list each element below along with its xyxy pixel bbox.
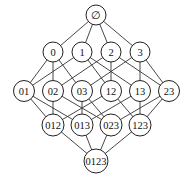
node-label: 1 (79, 47, 84, 58)
node-label: 02 (48, 86, 59, 97)
node-0123: 0123 (84, 149, 108, 173)
node-label: 12 (106, 86, 117, 97)
node-label: 13 (135, 86, 146, 97)
node-012: 012 (42, 114, 64, 136)
node-label: 03 (77, 86, 88, 97)
node-13: 13 (130, 81, 151, 102)
node-1: 1 (72, 42, 92, 62)
node-label: 123 (132, 120, 148, 131)
node-12: 12 (101, 81, 122, 102)
node-013: 013 (71, 114, 93, 136)
node-123: 123 (129, 114, 151, 136)
node-label: ∅ (91, 10, 101, 21)
node-3: 3 (130, 42, 150, 62)
node-label: 0 (50, 47, 55, 58)
node-label: 013 (74, 120, 90, 131)
node-label: 3 (137, 47, 142, 58)
node-23: 23 (159, 81, 180, 102)
node-label: 01 (19, 86, 30, 97)
node-023: 023 (100, 114, 122, 136)
node-03: 03 (72, 81, 93, 102)
hasse-diagram: ∅01230102031213230120130231230123 (0, 0, 193, 180)
node-01: 01 (14, 81, 35, 102)
node-label: 2 (108, 47, 113, 58)
node-0: 0 (43, 42, 63, 62)
node-empty-set: ∅ (86, 5, 106, 25)
nodes-layer: ∅01230102031213230120130231230123 (14, 5, 180, 173)
node-label: 012 (45, 120, 61, 131)
node-label: 023 (103, 120, 119, 131)
node-02: 02 (43, 81, 64, 102)
node-label: 23 (164, 86, 175, 97)
node-label: 0123 (86, 156, 107, 167)
node-2: 2 (101, 42, 121, 62)
